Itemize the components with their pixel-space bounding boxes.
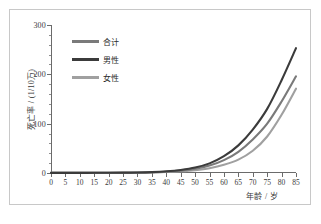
x-tick-label: 0: [49, 178, 53, 187]
x-axis-title: 年龄 / 岁: [246, 190, 278, 201]
x-tick: [152, 173, 153, 177]
y-tick-label: 300: [33, 21, 46, 30]
chart-figure: 死亡率 / (1/10万) 0100200300 051015202530354…: [9, 9, 311, 205]
legend-item: 女性: [72, 72, 120, 83]
legend-label: 合计: [103, 36, 120, 47]
chart-legend: 合计男性女性: [72, 36, 120, 83]
legend-label: 男性: [103, 54, 120, 65]
x-tick: [253, 173, 254, 177]
x-tick: [238, 173, 239, 177]
x-tick-label: 35: [148, 178, 156, 187]
x-tick-label: 50: [191, 178, 199, 187]
legend-label: 女性: [103, 72, 120, 83]
x-tick: [267, 173, 268, 177]
series-line: [51, 89, 296, 173]
legend-item: 合计: [72, 36, 120, 47]
x-tick-label: 80: [278, 178, 286, 187]
x-tick: [181, 173, 182, 177]
x-tick-label: 85: [292, 178, 300, 187]
x-tick-label: 65: [235, 178, 243, 187]
x-tick-label: 55: [206, 178, 214, 187]
x-tick-label: 70: [249, 178, 257, 187]
x-tick-label: 30: [134, 178, 142, 187]
x-tick: [166, 173, 167, 177]
x-tick: [210, 173, 211, 177]
x-tick-label: 75: [263, 178, 271, 187]
x-tick-label: 10: [76, 178, 84, 187]
x-tick: [224, 173, 225, 177]
x-tick-label: 45: [177, 178, 185, 187]
legend-swatch: [72, 76, 99, 79]
legend-item: 男性: [72, 54, 120, 65]
x-tick-label: 15: [90, 178, 98, 187]
y-axis-title: 死亡率 / (1/10万): [24, 25, 38, 173]
series-line: [51, 76, 296, 173]
legend-swatch: [72, 58, 99, 61]
y-tick-label: 0: [42, 169, 46, 178]
x-tick-label: 5: [64, 178, 68, 187]
x-axis-title-label: 年龄 / 岁: [246, 192, 278, 201]
x-tick: [282, 173, 283, 177]
y-tick-label: 200: [33, 70, 46, 79]
x-tick: [195, 173, 196, 177]
y-tick-label: 100: [33, 119, 46, 128]
x-tick-label: 20: [105, 178, 113, 187]
legend-swatch: [72, 40, 99, 43]
x-tick-label: 60: [220, 178, 228, 187]
x-tick-label: 40: [163, 178, 171, 187]
x-tick: [296, 173, 297, 177]
x-tick-label: 25: [119, 178, 127, 187]
